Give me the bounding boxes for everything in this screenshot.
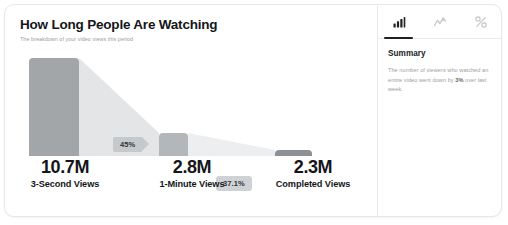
metric-value: 2.8M bbox=[160, 157, 225, 178]
panel-tabs bbox=[378, 5, 501, 39]
analytics-card: How Long People Are Watching The breakdo… bbox=[4, 4, 502, 217]
page-title: How Long People Are Watching bbox=[20, 17, 217, 32]
funnel-connector-2 bbox=[188, 133, 275, 156]
metric-name: Completed Views bbox=[276, 178, 350, 191]
tab-percent[interactable] bbox=[460, 5, 501, 38]
funnel-chart-panel: How Long People Are Watching The breakdo… bbox=[5, 5, 377, 216]
funnel-bar-3-second-views bbox=[29, 58, 79, 156]
tab-bar-chart[interactable] bbox=[378, 5, 419, 38]
funnel-label-group: 2.3M Completed Views bbox=[276, 157, 350, 191]
funnel-label-group: 10.7M 3-Second Views bbox=[31, 157, 99, 191]
summary-section: Summary The number of viewers who watche… bbox=[388, 49, 491, 95]
chart-subtitle: The breakdown of your video views this p… bbox=[20, 36, 133, 42]
metric-name: 3-Second Views bbox=[31, 178, 99, 191]
bar-chart-icon bbox=[392, 15, 406, 29]
tab-line-chart[interactable] bbox=[419, 5, 460, 38]
metric-name: 1-Minute Views bbox=[160, 178, 225, 191]
funnel-bar-completed-views-body bbox=[275, 154, 312, 156]
summary-body: The number of viewers who watched an ent… bbox=[388, 66, 491, 95]
metric-value: 10.7M bbox=[31, 157, 99, 178]
conversion-badge-1: 45% bbox=[113, 137, 142, 152]
percent-icon bbox=[474, 15, 488, 29]
funnel-bar-1-minute-views bbox=[159, 133, 188, 156]
summary-heading: Summary bbox=[388, 49, 491, 58]
summary-panel: Summary The number of viewers who watche… bbox=[378, 5, 501, 216]
funnel-svg bbox=[5, 49, 377, 161]
funnel-graphic: 45% 37.1% bbox=[5, 49, 377, 161]
metric-value: 2.3M bbox=[276, 157, 350, 178]
funnel-labels: 10.7M 3-Second Views 2.8M 1-Minute Views… bbox=[5, 157, 377, 205]
line-chart-icon bbox=[433, 15, 447, 29]
funnel-label-group: 2.8M 1-Minute Views bbox=[160, 157, 225, 191]
